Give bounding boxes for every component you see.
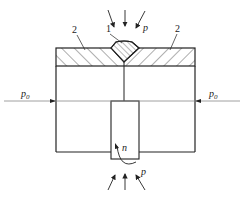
label-p-top: p [142, 22, 148, 33]
label-p-bottom: p [140, 166, 146, 177]
label-p0-left: p0 [20, 88, 30, 101]
weld-diagram: 2 1 2 p p n p0 p0 [0, 0, 244, 199]
arrow-right-icon [50, 99, 56, 103]
label-2-right: 2 [175, 23, 180, 34]
label-1: 1 [106, 23, 111, 34]
label-2-left: 2 [72, 24, 77, 35]
label-p0-right: p0 [208, 88, 218, 101]
arrow-left-icon [195, 99, 201, 103]
top-pressure-arrows [108, 10, 145, 28]
bottom-pressure-arrows [108, 174, 145, 190]
label-n: n [122, 142, 127, 153]
